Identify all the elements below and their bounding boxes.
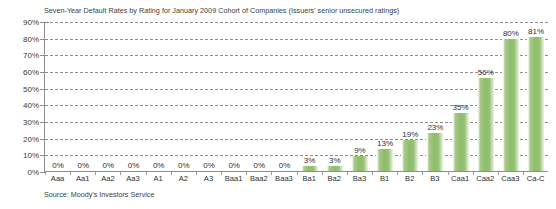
bar-value-label: 81% xyxy=(528,27,544,36)
x-axis-tick-label: Ba3 xyxy=(347,174,372,183)
y-axis-tick-label: 70% xyxy=(23,51,39,60)
bar-slot: 0% xyxy=(120,22,145,171)
bar-series: 0%0%0%0%0%0%0%0%0%0%3%3%9%13%19%23%35%56… xyxy=(45,22,548,171)
x-axis-labels: AaaAa1Aa2Aa3A1A2A3Baa1Baa2Baa3Ba1Ba2Ba3B… xyxy=(45,174,548,183)
x-axis-tick-label: B2 xyxy=(397,174,422,183)
x-axis-tick-label: Ca-C xyxy=(523,174,548,183)
x-axis-tick-label: Aaa xyxy=(45,174,70,183)
bar-slot: 3% xyxy=(322,22,347,171)
bar-value-label: 9% xyxy=(354,146,366,155)
x-axis-tick-label: Baa1 xyxy=(221,174,246,183)
bar-value-label: 56% xyxy=(478,68,494,77)
chart-screenshot: Seven-Year Default Rates by Rating for J… xyxy=(0,0,556,209)
x-axis-tick-label: A2 xyxy=(171,174,196,183)
x-axis-tick-label: Aa3 xyxy=(120,174,145,183)
bar: 3% xyxy=(301,166,318,171)
bar-value-label: 0% xyxy=(128,161,140,170)
bar-value-label: 0% xyxy=(178,161,190,170)
x-axis-tick-label: Caa3 xyxy=(498,174,523,183)
bar-slot: 0% xyxy=(70,22,95,171)
bar-slot: 56% xyxy=(473,22,498,171)
bar-value-label: 3% xyxy=(304,156,316,165)
bar-value-label: 0% xyxy=(279,161,291,170)
bar-slot: 13% xyxy=(372,22,397,171)
bar-value-label: 35% xyxy=(453,103,469,112)
x-axis-tick-label: Baa3 xyxy=(271,174,296,183)
x-axis-tick-label: Caa1 xyxy=(448,174,473,183)
x-axis-tick-label: Aa1 xyxy=(70,174,95,183)
y-axis-tick-label: 30% xyxy=(23,118,39,127)
bar-slot: 0% xyxy=(95,22,120,171)
bar-slot: 23% xyxy=(422,22,447,171)
bar: 3% xyxy=(326,166,343,171)
bar-value-label: 0% xyxy=(203,161,215,170)
bar-value-label: 0% xyxy=(153,161,165,170)
x-axis-tick-label: Aa2 xyxy=(95,174,120,183)
x-axis-tick-label: A1 xyxy=(146,174,171,183)
bar-slot: 0% xyxy=(271,22,296,171)
bar: 56% xyxy=(477,78,494,171)
bar-value-label: 0% xyxy=(228,161,240,170)
bar-slot: 9% xyxy=(347,22,372,171)
y-axis-tick-label: 60% xyxy=(23,68,39,77)
bar-slot: 19% xyxy=(397,22,422,171)
bar-slot: 81% xyxy=(523,22,548,171)
bar-slot: 0% xyxy=(171,22,196,171)
bar-value-label: 19% xyxy=(402,130,418,139)
x-axis-tick-label: Ba2 xyxy=(322,174,347,183)
bar: 81% xyxy=(527,37,544,171)
bar-slot: 0% xyxy=(45,22,70,171)
x-axis-tick-label: Baa2 xyxy=(246,174,271,183)
bar-slot: 0% xyxy=(146,22,171,171)
bar-slot: 0% xyxy=(246,22,271,171)
y-axis-tick-label: 80% xyxy=(23,34,39,43)
bar: 80% xyxy=(502,39,519,171)
x-axis-tick-label: Caa2 xyxy=(473,174,498,183)
bar-value-label: 80% xyxy=(503,29,519,38)
x-axis-tick-label: A3 xyxy=(196,174,221,183)
chart-title: Seven-Year Default Rates by Rating for J… xyxy=(44,6,399,15)
bar-slot: 80% xyxy=(498,22,523,171)
y-axis-tick-label: 20% xyxy=(23,134,39,143)
x-axis-tick-label: B1 xyxy=(372,174,397,183)
bar-value-label: 23% xyxy=(427,123,443,132)
bar-value-label: 0% xyxy=(52,161,64,170)
x-axis-tick-label: B3 xyxy=(422,174,447,183)
y-axis-tick-label: 40% xyxy=(23,101,39,110)
bar: 23% xyxy=(426,133,443,171)
y-axis-tick-label: 50% xyxy=(23,84,39,93)
y-axis-tick-label: 0% xyxy=(27,168,39,177)
bar-value-label: 0% xyxy=(103,161,115,170)
y-axis-tick-label: 90% xyxy=(23,18,39,27)
bar-slot: 3% xyxy=(297,22,322,171)
bar-value-label: 13% xyxy=(377,139,393,148)
x-axis-tick-label: Ba1 xyxy=(297,174,322,183)
bar-slot: 0% xyxy=(196,22,221,171)
bar: 19% xyxy=(401,140,418,171)
bar-slot: 0% xyxy=(221,22,246,171)
bar: 13% xyxy=(376,149,393,171)
source-note: Source: Moody's Investors Service xyxy=(44,190,154,199)
bar-slot: 35% xyxy=(448,22,473,171)
bar-value-label: 3% xyxy=(329,156,341,165)
bar: 35% xyxy=(452,113,469,171)
y-axis-tick-label: 10% xyxy=(23,151,39,160)
bar: 9% xyxy=(351,156,368,171)
bar-value-label: 0% xyxy=(254,161,266,170)
plot-area: 90%80%70%60%50%40%30%20%10%0% 0%0%0%0%0%… xyxy=(44,22,548,172)
bar-value-label: 0% xyxy=(77,161,89,170)
